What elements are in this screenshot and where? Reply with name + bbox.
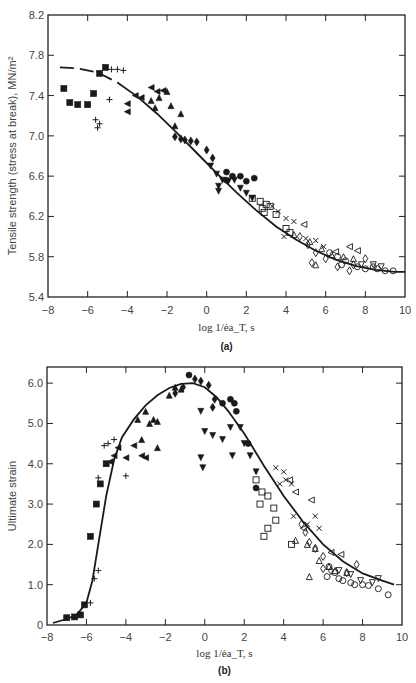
data-point-marker	[265, 493, 271, 499]
data-point-marker	[178, 111, 184, 117]
y-axis-label: Ultimate strain	[6, 461, 18, 531]
data-point-marker	[120, 67, 126, 73]
series-filled-circles	[224, 169, 258, 184]
data-point-marker	[114, 66, 120, 72]
data-point-marker	[143, 408, 149, 414]
data-point-marker	[259, 205, 265, 211]
y-tick-label: 1.0	[28, 579, 43, 591]
data-point-marker	[139, 437, 145, 443]
data-point-marker	[224, 177, 230, 183]
data-point-marker	[308, 497, 314, 503]
data-point-marker	[152, 105, 158, 111]
data-point-marker	[247, 453, 253, 459]
series-filled-squares	[64, 461, 109, 621]
data-point-marker	[317, 526, 322, 531]
data-point-marker	[237, 173, 243, 179]
x-tick-label: −8	[41, 631, 54, 643]
data-point-marker	[148, 85, 154, 91]
x-tick-label: −4	[120, 631, 133, 643]
data-point-marker	[148, 98, 154, 104]
chart-ultimate-strain: −8−6−4−2024681001.02.03.04.05.06.0log 1/…	[6, 367, 408, 676]
data-point-marker	[273, 517, 279, 523]
x-tick-label: 2	[241, 631, 247, 643]
x-tick-label: −6	[80, 631, 93, 643]
data-point-marker	[172, 133, 177, 141]
data-point-marker	[289, 541, 295, 547]
y-tick-label: 2.0	[28, 538, 43, 550]
data-point-marker	[156, 95, 162, 101]
fit-curve	[53, 383, 394, 623]
data-point-marker	[277, 481, 282, 486]
series-left-triangles	[107, 443, 149, 465]
data-point-marker	[75, 102, 81, 108]
data-point-marker	[271, 505, 277, 511]
y-tick-label: 7.0	[29, 130, 44, 142]
data-point-marker	[111, 437, 117, 443]
data-point-marker	[123, 455, 129, 461]
data-point-marker	[198, 455, 204, 461]
data-point-marker	[313, 514, 318, 519]
y-axis-label: Tensile strength (stress at break), MN/m…	[6, 56, 18, 255]
x-axis-label: log 1/ėa_T, s	[198, 321, 254, 333]
data-point-marker	[227, 424, 233, 430]
data-point-marker	[346, 244, 352, 250]
data-point-marker	[313, 262, 319, 268]
x-tick-label: 2	[243, 304, 249, 316]
data-point-marker	[93, 117, 99, 123]
data-point-marker	[229, 173, 235, 179]
data-point-marker	[251, 175, 257, 181]
y-tick-label: 4.0	[28, 458, 43, 470]
panel-label: (a)	[220, 341, 232, 352]
data-point-marker	[220, 437, 226, 443]
data-point-marker	[61, 86, 67, 92]
data-point-marker	[291, 219, 296, 224]
data-point-marker	[154, 89, 160, 95]
data-point-marker	[348, 572, 354, 578]
data-point-marker	[297, 233, 302, 241]
data-point-marker	[198, 377, 203, 385]
data-point-marker	[313, 238, 318, 243]
x-tick-label: −6	[81, 304, 94, 316]
data-point-marker	[263, 201, 269, 207]
data-point-marker	[273, 211, 279, 217]
data-point-marker	[273, 465, 278, 470]
data-point-marker	[198, 408, 204, 414]
y-tick-label: 7.8	[29, 49, 44, 61]
data-point-marker	[200, 465, 206, 471]
x-tick-label: 4	[281, 631, 287, 643]
panel-label: (b)	[218, 665, 231, 676]
data-point-marker	[257, 501, 263, 507]
series-filled-circles	[186, 372, 259, 491]
y-tick-label: 7.4	[29, 90, 44, 102]
data-point-marker	[220, 400, 226, 406]
data-point-marker	[93, 501, 99, 507]
y-tick-label: 5.8	[29, 251, 44, 263]
data-point-marker	[97, 481, 103, 487]
x-tick-label: 0	[202, 631, 208, 643]
data-point-marker	[186, 372, 192, 378]
data-point-marker	[204, 146, 209, 154]
x-tick-label: −4	[121, 304, 134, 316]
data-point-marker	[87, 533, 93, 539]
y-tick-label: 0	[37, 619, 43, 631]
x-tick-label: 6	[320, 631, 326, 643]
data-point-marker	[233, 408, 239, 414]
data-point-marker	[154, 445, 160, 451]
data-point-marker	[229, 453, 235, 459]
data-point-marker	[243, 190, 249, 196]
x-tick-label: 10	[399, 304, 411, 316]
data-point-marker	[282, 234, 287, 239]
data-point-marker	[64, 615, 70, 621]
data-point-marker	[284, 216, 289, 221]
x-tick-label: 4	[283, 304, 289, 316]
data-point-marker	[95, 475, 101, 481]
data-point-marker	[243, 178, 249, 184]
data-point-marker	[321, 552, 326, 560]
data-point-marker	[265, 525, 271, 531]
data-point-marker	[347, 267, 352, 275]
data-point-marker	[259, 489, 265, 495]
data-point-marker	[210, 433, 216, 439]
data-point-marker	[306, 574, 312, 580]
data-point-marker	[67, 100, 73, 106]
data-point-marker	[249, 195, 255, 201]
